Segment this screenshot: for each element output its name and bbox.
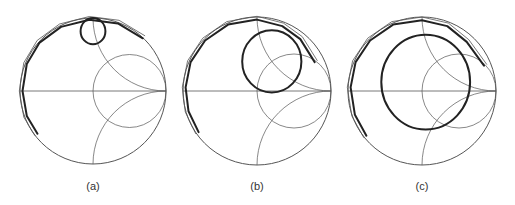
reactance-arc-positive: [422, 0, 501, 91]
panel-label-a: (a): [73, 180, 113, 192]
smith-chart-c: (c): [329, 0, 501, 205]
outer-trace-thin: [182, 16, 317, 134]
smith-chart-a-svg: [0, 0, 172, 205]
impedance-loop: [381, 35, 470, 130]
smith-chart-a: (a): [0, 0, 172, 205]
panel-label-c: (c): [402, 180, 442, 192]
smith-chart-b-svg: [164, 0, 336, 205]
smith-chart-c-svg: [329, 0, 501, 205]
panel-label-b: (b): [237, 180, 277, 192]
smith-chart-b: (b): [164, 0, 336, 205]
outer-trace-thin: [19, 17, 145, 136]
reactance-arc-positive: [93, 0, 172, 91]
